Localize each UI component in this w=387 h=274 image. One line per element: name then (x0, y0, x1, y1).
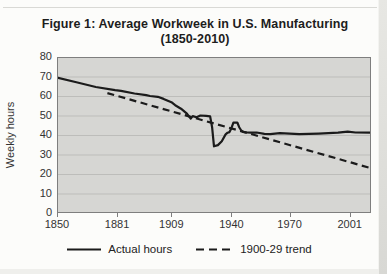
plot-canvas (57, 57, 371, 213)
y-tick-label: 80 (18, 50, 52, 62)
y-tick-label: 40 (18, 128, 52, 140)
y-tick-label: 20 (18, 167, 52, 179)
plot-area (57, 57, 371, 213)
scan-edge-bottom (0, 269, 379, 274)
x-tick-mark (117, 212, 118, 217)
y-tick-label: 70 (18, 70, 52, 82)
legend-item-trend: 1900-29 trend (196, 243, 312, 255)
trend-line (107, 93, 371, 168)
y-tick-label: 60 (18, 89, 52, 101)
x-tick-label: 1850 (35, 218, 79, 230)
y-tick-label: 0 (18, 206, 52, 218)
scan-edge-right (378, 0, 387, 274)
figure-card: Figure 1: Average Workweek in U.S. Manuf… (0, 0, 387, 274)
x-tick-label: 1881 (95, 218, 139, 230)
legend-label-trend: 1900-29 trend (240, 243, 312, 255)
x-tick-label: 1940 (209, 218, 253, 230)
x-tick-mark (350, 212, 351, 217)
x-tick-label: 1909 (149, 218, 193, 230)
legend-label-actual-hours: Actual hours (108, 243, 172, 255)
dashed-line-swatch-icon (196, 247, 233, 252)
y-tick-label: 10 (18, 187, 52, 199)
chart-title: Figure 1: Average Workweek in U.S. Manuf… (30, 17, 360, 47)
chart-title-line1: Figure 1: Average Workweek in U.S. Manuf… (30, 17, 360, 32)
solid-line-swatch-icon (67, 247, 101, 252)
x-tick-mark (290, 212, 291, 217)
legend-item-actual-hours: Actual hours (67, 243, 172, 255)
y-axis-title: Weekly hours (4, 102, 16, 168)
chart-title-line2: (1850-2010) (30, 32, 360, 47)
x-tick-label: 2001 (328, 218, 372, 230)
x-tick-mark (231, 212, 232, 217)
x-tick-mark (171, 212, 172, 217)
scan-edge-top (3, 7, 377, 8)
y-tick-label: 50 (18, 109, 52, 121)
x-tick-label: 1970 (268, 218, 312, 230)
legend: Actual hours 1900-29 trend (0, 243, 379, 255)
y-tick-label: 30 (18, 148, 52, 160)
x-tick-mark (57, 212, 58, 217)
